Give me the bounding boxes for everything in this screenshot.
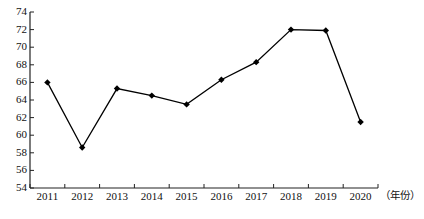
x-axis-tick-label: 2013	[100, 190, 135, 202]
x-axis-tick-label: 2018	[274, 190, 309, 202]
x-axis-tick-label: 2015	[169, 190, 204, 202]
x-axis-tick-labels: 2011201220132014201520162017201820192020	[0, 0, 424, 219]
x-axis-title: （年份）	[380, 190, 420, 202]
x-axis-tick-label: 2019	[308, 190, 343, 202]
x-axis-tick-label: 2020	[343, 190, 378, 202]
x-axis-tick-label: 2011	[30, 190, 65, 202]
line-chart: 5456586062646668707274 20112012201320142…	[0, 0, 424, 219]
x-axis-tick-label: 2017	[239, 190, 274, 202]
x-axis-tick-label: 2014	[134, 190, 169, 202]
x-axis-tick-label: 2016	[204, 190, 239, 202]
x-axis-tick-label: 2012	[65, 190, 100, 202]
